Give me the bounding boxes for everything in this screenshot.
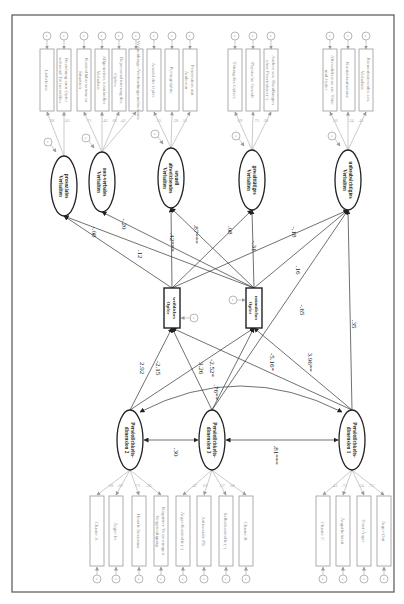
residual-label: e [322,576,324,581]
correlation-curve [140,386,342,412]
factor-loading: .42 [102,118,108,123]
factor-loading: .28 [108,483,114,488]
svg-text:Antisoziale PS: Antisoziale PS [201,516,206,546]
svg-text:.35: .35 [350,320,358,329]
residual-label: e [115,576,117,581]
svg-text:Opfers: Opfers [113,73,118,87]
path-coefficient: .16 [294,266,302,275]
loading-arrow [97,470,130,495]
svg-text:-2.52*: -2.52* [208,359,216,378]
factor-loading: .75 [254,118,260,123]
residual-label: e [383,576,385,581]
factor-loading: .12 [182,118,188,123]
disturbance-arrow [51,145,56,152]
indicator-label: Pornographie [169,67,174,95]
residual-label: e [63,33,65,38]
residual-label: e [347,33,349,38]
diagram-canvas: .28Liebeleien.05Beziehung zum Opferwähre… [0,0,404,604]
svg-text:Cluster C: Cluster C [320,521,325,541]
structural-path [130,328,172,410]
path-coefficient: -2.52* [208,359,216,378]
residual-label: e [189,33,191,38]
indicator-label: Beziehung zum Opferwährend Tat herstelle… [58,57,68,103]
latent-label: Persönlichkeits-dimension 3 [206,422,218,458]
svg-text:dimension 2: dimension 2 [124,427,130,454]
svg-text:Beziehung zum Opfer: Beziehung zum Opfer [64,58,69,102]
svg-text:während Tat herstellen: während Tat herstellen [58,57,63,103]
svg-text:Vermeidungs-/Verbindungsmaßnah: Vermeidungs-/Verbindungsmaßnahmen [136,40,141,120]
path-coefficient: -.20 [120,218,128,230]
path-coefficient: -.31 [250,240,258,252]
svg-text:Romantisierendes sex.: Romantisierendes sex. [366,58,371,103]
path-coefficient: .42*** [168,232,176,252]
svg-text:Verhalten: Verhalten [58,175,64,197]
svg-text:Verhalten: Verhalten [360,70,365,90]
svg-text:Verhalten: Verhalten [342,169,348,191]
svg-text:-.65: -.65 [298,304,306,316]
residual-label: e [46,33,48,38]
factor-loading: .72 [135,483,141,488]
residual-label: e [138,576,140,581]
factor-loading: .58 [146,483,152,488]
svg-text:2.92: 2.92 [138,362,146,375]
svg-text:ohne Penetration (-): ohne Penetration (-) [265,60,270,100]
path-coefficient: .08 [226,226,234,235]
path-coefficient: -2.15 [154,361,162,376]
disturbance-arrow [89,141,94,148]
residual-label: e [365,33,367,38]
svg-text:Ärger-Out: Ärger-Out [381,521,386,542]
structural-path [172,210,252,288]
svg-text:Vergewaltigung: Vergewaltigung [155,515,160,547]
svg-text:Tötung des Opfers: Tötung des Opfers [232,61,237,98]
svg-text:Cluster B: Cluster B [243,521,248,541]
indicator-label: Anzahl der Opfer [151,63,156,98]
indicator-label: Ärger-In [113,522,118,540]
residual-label: e [203,576,205,581]
svg-text:Altersdifferenz zw. Täter: Altersdifferenz zw. Täter [330,55,335,105]
factor-loading: .71 [86,118,92,123]
svg-text:.81***: .81*** [272,445,280,465]
factor-loading: .58 [263,118,269,123]
factor-loading: .38 [173,118,179,123]
factor-loading: .61 [202,483,208,488]
structural-path [348,210,352,410]
svg-text:Ängstlichkeit: Ängstlichkeit [340,518,345,546]
path-coefficient: -5.16* [268,353,276,372]
path-coefficient: .12 [136,250,144,259]
svg-text:-.18: -.18 [290,226,298,238]
path-coefficient: -.65 [298,304,306,316]
latent-label: non-verbalesVerhalten [96,168,108,197]
indicator-label: Ärger-Out [381,521,386,542]
indicator-label: Tötung des Opfers [232,61,237,98]
svg-text:männliches: männliches [254,296,259,320]
svg-text:weibliches: weibliches [172,297,177,319]
svg-text:Trait-Ärger: Trait-Ärger [361,520,366,543]
svg-text:Penetration mit: Penetration mit [190,65,195,96]
svg-text:dimension 1: dimension 1 [346,427,352,454]
path-coefficient: .87*** [192,224,200,244]
residual-label: e [118,33,120,38]
svg-text:Opfer: Opfer [166,302,171,316]
svg-text:-.31: -.31 [250,240,258,252]
svg-text:.12: .12 [136,250,144,259]
svg-text:Allgemeines kriminelles: Allgemeines kriminelles [102,55,107,104]
svg-text:Hostile Sexismus: Hostile Sexismus [136,514,141,549]
indicator-label: Trait-Ärger [361,520,366,543]
factor-loading: .57 [219,483,225,488]
svg-text:-.08: -.08 [90,226,98,238]
path-coefficient: -.08 [90,226,98,238]
svg-text:3.96**: 3.96** [306,352,314,372]
svg-text:Ärger-Kontrolle (-): Ärger-Kontrolle (-) [180,512,185,551]
svg-text:-2.15: -2.15 [154,361,162,376]
svg-text:Kontaktaufnahme: Kontaktaufnahme [345,62,350,99]
residual-label: e [363,576,365,581]
factor-loading: .05 [64,118,70,123]
svg-text:Kontrollübernahme in: Kontrollübernahme in [84,58,89,103]
svg-text:Situation: Situation [78,71,83,90]
indicator-label: Cluster A [94,521,99,540]
factor-loading: .69 [237,118,243,123]
disturbance-arrow [239,139,244,146]
svg-text:Anzahl der Opfer: Anzahl der Opfer [151,63,156,98]
factor-loading: .43 [332,483,338,488]
svg-text:.87***: .87*** [192,224,200,244]
